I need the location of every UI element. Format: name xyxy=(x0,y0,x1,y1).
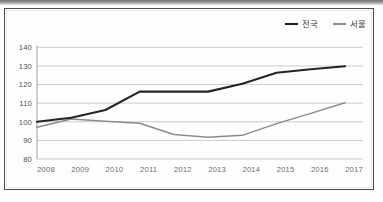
x-axis-tick-label: 2008 xyxy=(37,165,55,174)
y-axis-tick-labels: 8090100110120130140 xyxy=(19,43,32,164)
x-axis-tick-label: 2014 xyxy=(242,165,260,174)
x-axis-tick-label: 2010 xyxy=(106,165,124,174)
gridlines-group xyxy=(37,45,363,159)
y-axis-tick-label: 110 xyxy=(19,99,32,108)
x-axis-tick-label: 2012 xyxy=(174,165,192,174)
legend-label: 서울 xyxy=(350,19,366,29)
legend-label: 전국 xyxy=(302,19,318,29)
y-axis-tick-label: 140 xyxy=(19,43,32,52)
figure-page: 8090100110120130140 20082009201020112012… xyxy=(0,0,383,202)
x-axis-tick-label: 2009 xyxy=(71,165,89,174)
series-lines-group xyxy=(37,66,345,137)
y-axis-tick-label: 80 xyxy=(23,155,32,164)
y-axis-tick-label: 120 xyxy=(19,80,32,89)
line-chart: 8090100110120130140 20082009201020112012… xyxy=(4,8,374,190)
x-axis-tick-labels: 2008200920102011201220132014201520162017 xyxy=(37,165,363,174)
chart-legend: 전국서울 xyxy=(285,19,366,29)
x-axis-tick-label: 2016 xyxy=(311,165,329,174)
series-line xyxy=(37,66,345,121)
y-axis-tick-label: 90 xyxy=(23,136,32,145)
x-axis-tick-label: 2017 xyxy=(345,165,363,174)
series-line xyxy=(37,103,345,137)
x-axis-tick-label: 2015 xyxy=(277,165,295,174)
scan-top-hairline xyxy=(0,4,383,5)
y-axis-tick-label: 130 xyxy=(19,62,32,71)
y-axis-tick-label: 100 xyxy=(19,118,32,127)
x-axis-tick-label: 2013 xyxy=(208,165,226,174)
x-axis-tick-label: 2011 xyxy=(140,165,157,174)
